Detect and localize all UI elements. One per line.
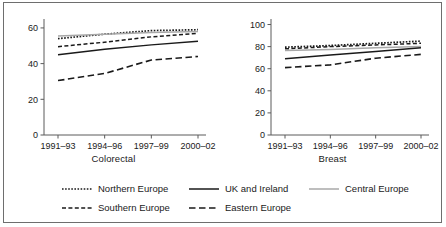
legend-label-uk-and-ireland: UK and Ireland <box>225 183 288 194</box>
x-tick-label: 1994–96 <box>87 141 122 151</box>
x-tick-label: 2000–02 <box>403 141 438 151</box>
y-tick-label: 80 <box>255 42 265 52</box>
x-tick-label: 2000–02 <box>180 141 215 151</box>
y-tick-label: 20 <box>255 108 265 118</box>
legend-svg: Northern EuropeUK and IrelandCentral Eur… <box>4 175 443 225</box>
y-tick-label: 0 <box>33 130 38 140</box>
series-line-uk-and-ireland <box>58 41 198 54</box>
panel-title-colorectal: Colorectal <box>4 153 223 164</box>
x-tick-label: 1997–99 <box>134 141 169 151</box>
colorectal-plot: 02040601991–931994–961997–992000–02 <box>4 3 223 153</box>
y-tick-label: 40 <box>28 59 38 69</box>
y-tick-label: 100 <box>250 20 265 30</box>
x-tick-label: 1991–93 <box>267 141 302 151</box>
x-tick-label: 1997–99 <box>358 141 393 151</box>
legend-label-central-europe: Central Europe <box>345 183 409 194</box>
chart-panel-breast: 0204060801001991–931994–961997–992000–02… <box>223 3 442 171</box>
figure-frame: 02040601991–931994–961997–992000–02 Colo… <box>3 2 442 223</box>
y-tick-label: 0 <box>260 130 265 140</box>
y-tick-label: 60 <box>28 23 38 33</box>
panel-title-breast: Breast <box>223 153 442 164</box>
charts-container: 02040601991–931994–961997–992000–02 Colo… <box>4 3 443 171</box>
series-line-northern-europe <box>58 30 198 39</box>
series-line-central-europe <box>58 31 198 35</box>
y-tick-label: 60 <box>255 64 265 74</box>
series-line-eastern-europe <box>58 56 198 80</box>
x-tick-label: 1991–93 <box>40 141 75 151</box>
legend-label-northern-europe: Northern Europe <box>98 183 168 194</box>
breast-plot: 0204060801001991–931994–961997–992000–02 <box>223 3 442 153</box>
y-tick-label: 40 <box>255 86 265 96</box>
legend-label-southern-europe: Southern Europe <box>98 202 170 213</box>
chart-legend: Northern EuropeUK and IrelandCentral Eur… <box>4 175 443 225</box>
legend-label-eastern-europe: Eastern Europe <box>225 202 291 213</box>
y-tick-label: 20 <box>28 95 38 105</box>
chart-panel-colorectal: 02040601991–931994–961997–992000–02 Colo… <box>4 3 223 171</box>
x-tick-label: 1994–96 <box>313 141 348 151</box>
